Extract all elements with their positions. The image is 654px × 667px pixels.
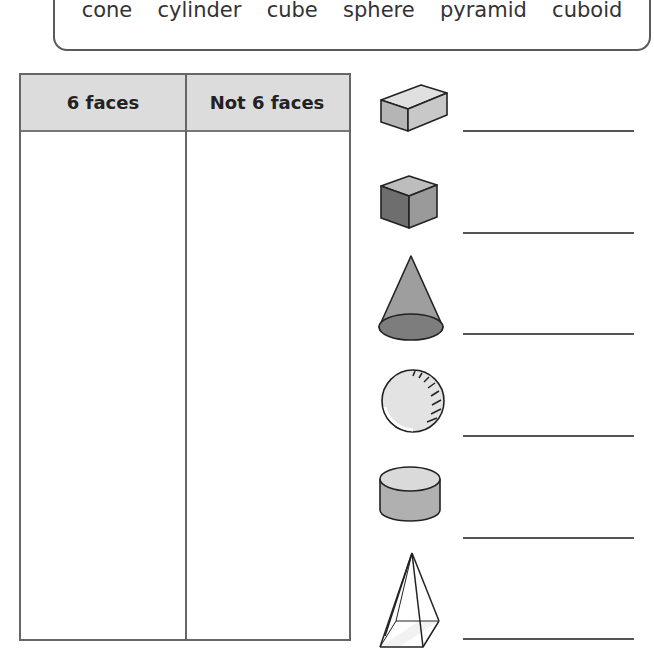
answer-line-cuoid[interactable] <box>463 130 634 132</box>
word-bank-list: cone cylinder cube sphere pyramid cuboid <box>55 0 649 22</box>
word-sphere: sphere <box>343 0 415 22</box>
cylinder-icon <box>377 463 443 525</box>
column-6-faces-area[interactable] <box>21 132 185 639</box>
cone-icon <box>376 253 446 343</box>
word-cube: cube <box>267 0 318 22</box>
header-6-faces: 6 faces <box>21 75 185 130</box>
sphere-icon <box>379 367 447 435</box>
word-cylinder: cylinder <box>158 0 242 22</box>
sorting-table: 6 faces Not 6 faces <box>19 73 351 641</box>
answer-line-cone[interactable] <box>463 333 634 335</box>
column-not-6-faces-area[interactable] <box>187 132 349 639</box>
answer-line-cube[interactable] <box>463 232 634 234</box>
answer-line-sphere[interactable] <box>463 435 634 437</box>
header-not-6-faces: Not 6 faces <box>185 75 349 130</box>
answer-line-pyramid[interactable] <box>463 638 634 640</box>
word-pyramid: pyramid <box>440 0 527 22</box>
word-bank: cone cylinder cube sphere pyramid cuboid <box>53 0 651 51</box>
pyramid-icon <box>377 551 441 651</box>
word-cuboid: cuboid <box>552 0 622 22</box>
answer-line-cylinder[interactable] <box>463 537 634 539</box>
cuboid-icon <box>378 80 450 134</box>
word-cone: cone <box>82 0 133 22</box>
cube-icon <box>378 173 440 231</box>
